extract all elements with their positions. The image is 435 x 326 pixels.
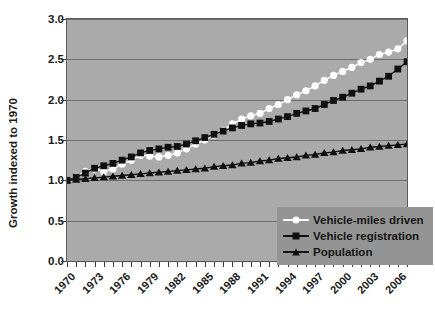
x-tick-label-1997: 1997	[292, 270, 326, 304]
data-point	[321, 101, 328, 108]
x-tick-mark-1975	[113, 262, 114, 267]
data-point	[119, 157, 126, 164]
data-point	[164, 152, 171, 159]
data-point	[174, 143, 181, 150]
data-point	[358, 86, 365, 93]
legend-item-population[interactable]: Population	[283, 244, 424, 260]
x-tick-mark-1984	[196, 262, 197, 267]
data-point	[293, 91, 300, 98]
data-point	[128, 154, 135, 161]
data-point	[339, 68, 346, 75]
legend-item-vehicle-registration[interactable]: Vehicle registration	[283, 228, 424, 244]
data-point	[376, 78, 383, 85]
data-point	[238, 115, 245, 122]
data-point	[211, 131, 218, 138]
data-point	[394, 45, 401, 52]
data-point	[201, 134, 208, 141]
x-tick-mark-1986	[214, 262, 215, 267]
legend-square-icon	[283, 229, 309, 243]
y-tick-label-3.0: 3.0	[24, 13, 64, 25]
x-tick-mark-1981	[168, 262, 169, 267]
data-point	[404, 58, 407, 65]
data-point	[339, 94, 346, 101]
x-tick-mark-1983	[186, 262, 187, 267]
x-tick-label-1976: 1976	[99, 270, 133, 304]
data-point	[321, 77, 328, 84]
data-point	[192, 137, 199, 144]
data-point	[367, 83, 374, 90]
x-tick-mark-1978	[141, 262, 142, 267]
growth-index-line-chart: Growth indexed to 1970 0.00.51.01.52.02.…	[0, 0, 435, 326]
legend-label: Vehicle-miles driven	[313, 214, 424, 226]
data-point	[174, 149, 181, 156]
data-point	[220, 128, 227, 135]
data-point	[284, 96, 291, 103]
x-tick-label-1982: 1982	[154, 270, 188, 304]
y-axis-title: Growth indexed to 1970	[0, 0, 26, 326]
y-tick-label-1.5: 1.5	[24, 134, 64, 146]
data-point	[293, 110, 300, 117]
data-point	[302, 87, 309, 94]
data-point	[257, 120, 264, 127]
x-tick-label-1979: 1979	[126, 270, 160, 304]
x-tick-label-1988: 1988	[209, 270, 243, 304]
x-tick-label-1973: 1973	[71, 270, 105, 304]
x-tick-mark-1985	[205, 262, 206, 267]
data-point	[330, 72, 337, 79]
data-point	[394, 66, 401, 73]
data-point	[229, 125, 236, 132]
legend-label: Population	[313, 246, 372, 258]
data-point	[183, 141, 190, 148]
y-tick-label-1.0: 1.0	[24, 174, 64, 186]
x-tick-mark-1982	[177, 262, 178, 267]
x-tick-label-1970: 1970	[44, 270, 78, 304]
data-point	[275, 116, 282, 123]
data-point	[155, 145, 162, 152]
x-tick-mark-1972	[85, 262, 86, 267]
y-tick-label-0.0: 0.0	[24, 255, 64, 267]
data-point	[312, 105, 319, 112]
data-point	[284, 113, 291, 120]
data-point	[376, 51, 383, 58]
x-tick-label-2003: 2003	[347, 270, 381, 304]
x-tick-mark-1991	[260, 262, 261, 267]
data-point	[357, 59, 364, 66]
x-tick-label-2000: 2000	[319, 270, 353, 304]
series-line	[67, 41, 407, 181]
y-tick-label-0.5: 0.5	[24, 215, 64, 227]
data-point	[275, 101, 282, 108]
data-point	[247, 120, 254, 127]
data-point	[238, 122, 245, 129]
x-tick-label-2006: 2006	[374, 270, 408, 304]
data-point	[146, 147, 153, 154]
data-point	[312, 82, 319, 89]
data-point	[256, 110, 263, 117]
data-point	[385, 73, 392, 80]
legend-label: Vehicle registration	[313, 230, 419, 242]
x-tick-label-1985: 1985	[181, 270, 215, 304]
legend-item-vehicle-miles-driven[interactable]: Vehicle-miles driven	[283, 212, 424, 228]
x-tick-label-1994: 1994	[264, 270, 298, 304]
x-tick-mark-1974	[104, 262, 105, 267]
data-point	[330, 97, 337, 104]
data-point	[91, 165, 98, 172]
data-point	[100, 162, 107, 169]
data-point	[110, 160, 117, 167]
chart-legend: Vehicle-miles drivenVehicle registration…	[277, 207, 433, 265]
x-tick-mark-1979	[150, 262, 151, 267]
data-point	[155, 153, 162, 160]
data-point	[303, 108, 310, 115]
x-tick-mark-1992	[269, 262, 270, 267]
data-point	[247, 112, 254, 119]
x-tick-label-1991: 1991	[237, 270, 271, 304]
x-tick-mark-1980	[159, 262, 160, 267]
legend-circle-icon	[283, 213, 309, 227]
x-tick-mark-1988	[232, 262, 233, 267]
x-tick-mark-1989	[242, 262, 243, 267]
y-tick-label-2.5: 2.5	[24, 53, 64, 65]
data-point	[348, 64, 355, 71]
y-tick-label-2.0: 2.0	[24, 94, 64, 106]
data-point	[137, 150, 144, 157]
x-tick-mark-1987	[223, 262, 224, 267]
x-tick-mark-1973	[95, 262, 96, 267]
